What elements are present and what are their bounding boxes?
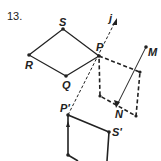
point-dashed-2 [134,114,137,117]
image-arrow-icon [66,121,70,127]
point-s-prime [107,130,111,134]
label-q: Q [62,79,71,91]
vector-mn [117,47,146,105]
dashed-quadrilateral [99,56,140,116]
label-n: N [115,108,124,120]
rhombus-pqrs [29,29,99,76]
label-s: S [59,16,67,28]
line-j-arrow-icon [112,18,117,25]
label-s-prime: S' [112,126,122,138]
geometry-figure: 13. S R Q P j M N P' S' [0,0,161,161]
point-r [27,53,31,57]
label-j: j [107,12,113,24]
label-r: R [25,59,33,71]
point-bottom [66,153,70,157]
image-quadrilateral [68,115,109,161]
point-dashed-1 [138,70,141,73]
label-m: M [148,46,158,58]
label-p: P [96,41,104,53]
point-p [97,54,101,58]
point-dashed-3 [98,94,101,97]
label-p-prime: P' [60,102,70,114]
point-q [64,74,68,78]
problem-number: 13. [7,10,22,22]
